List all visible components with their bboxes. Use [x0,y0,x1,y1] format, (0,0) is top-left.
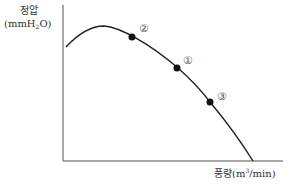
y-axis-label-title: 정압 [20,6,38,16]
operating-point-3 [207,99,214,106]
chart-canvas: 정압 (mmH2O) 풍량(m3/min) ② ① ③ [0,0,296,190]
x-axis-label: 풍량(m3/min) [214,168,276,179]
operating-point-2 [129,34,136,41]
point-label-3: ③ [217,91,227,102]
point-label-2: ② [139,23,149,34]
y-axis-label-unit: (mmH2O) [4,19,52,30]
point-label-1: ① [183,55,193,66]
operating-point-1 [174,65,181,72]
